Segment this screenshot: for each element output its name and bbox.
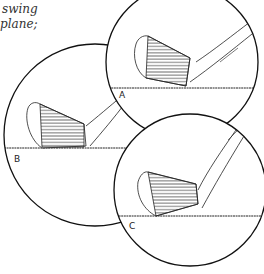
panel-c-label: C	[129, 221, 135, 231]
panel-b-label: B	[14, 154, 20, 164]
golf-club-lie-diagram: B A C	[0, 0, 264, 274]
panel-c: C	[114, 114, 264, 266]
panel-a-label: A	[119, 90, 126, 100]
